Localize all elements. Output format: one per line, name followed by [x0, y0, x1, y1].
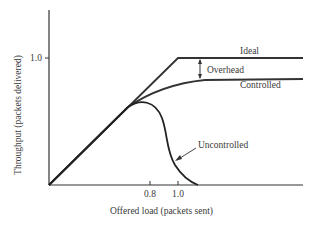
y-axis-label: Throughput (packets delivered)	[13, 45, 23, 185]
uncontrolled-pointer-head	[175, 155, 182, 161]
label-controlled: Controlled	[240, 81, 281, 91]
xtick-label-1.0: 1.0	[172, 190, 184, 200]
overhead-arrowhead-up	[198, 59, 202, 64]
series-controlled	[49, 79, 303, 185]
label-overhead: Overhead	[207, 66, 244, 76]
overhead-arrowhead-down	[198, 74, 202, 79]
series-uncontrolled	[49, 102, 198, 185]
ytick-label-1.0: 1.0	[30, 54, 42, 64]
label-ideal: Ideal	[240, 47, 259, 57]
label-uncontrolled: Uncontrolled	[198, 141, 248, 151]
x-axis-label: Offered load (packets sent)	[110, 207, 213, 217]
chart-canvas	[0, 0, 318, 226]
xtick-label-0.8: 0.8	[144, 190, 156, 200]
